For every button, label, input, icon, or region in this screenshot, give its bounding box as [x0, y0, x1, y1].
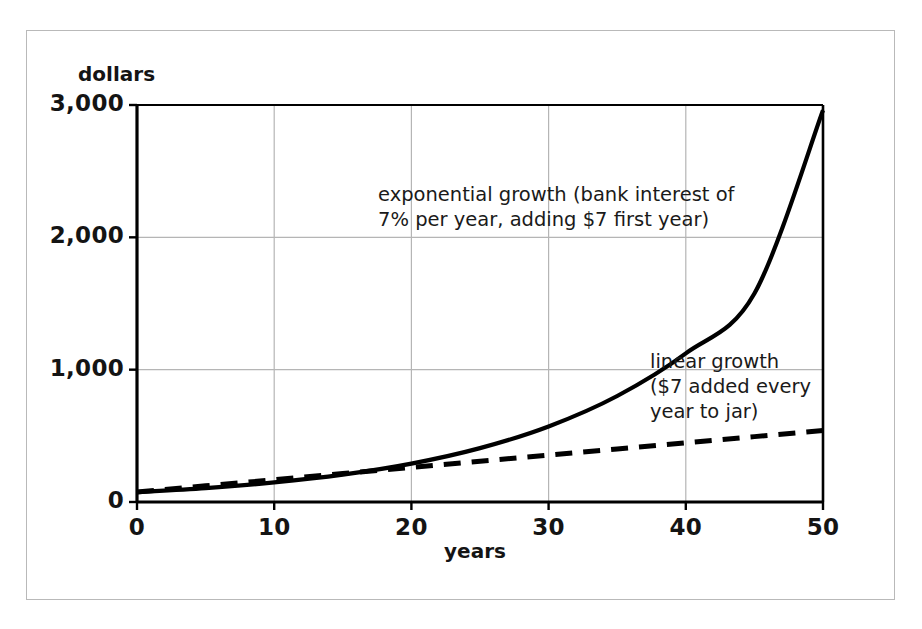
y-tick-label: 1,000 — [14, 355, 124, 381]
x-tick-label: 20 — [381, 514, 441, 540]
y-tick-label: 3,000 — [14, 90, 124, 116]
y-axis-title: dollars — [78, 62, 155, 86]
x-tick-label: 0 — [107, 514, 167, 540]
y-tick-label: 0 — [14, 487, 124, 513]
annotation-exponential-growth: exponential growth (bank interest of 7% … — [378, 182, 734, 232]
x-tick-label: 40 — [656, 514, 716, 540]
x-axis-title-text: years — [444, 539, 506, 563]
x-tick-label: 30 — [519, 514, 579, 540]
x-axis-title: years — [0, 539, 922, 563]
x-tick-label: 10 — [244, 514, 304, 540]
annotation-linear-growth: linear growth ($7 added every year to ja… — [650, 349, 811, 424]
x-tick-label: 50 — [793, 514, 853, 540]
y-tick-label: 2,000 — [14, 222, 124, 248]
